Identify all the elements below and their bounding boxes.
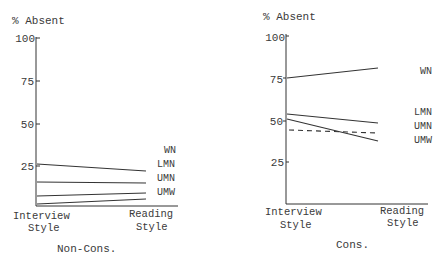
series-line-wn [37,164,146,171]
tick-label: 100 [15,33,35,45]
x-label-interview: Interview [13,210,70,222]
series-labels: WN LMN UMN UMW [414,66,432,146]
tick-label: 75 [21,76,34,88]
chart-caption: Cons. [336,239,369,251]
series-label-lmn: LMN [414,107,432,118]
x-label-reading-style: Style [387,217,419,229]
data-lines [287,68,378,141]
series-labels: WN LMN UMN UMW [157,145,176,198]
series-line-lmn [287,114,378,123]
x-label-interview: Interview [265,206,322,218]
series-line-lmn [37,182,146,183]
chart-cons: % Absent 100 75 50 25 WN LMN UMN UMW Int… [263,11,432,251]
series-label-umn: UMN [414,121,432,132]
tick-label: 100 [265,32,285,44]
series-label-umw: UMW [414,135,432,146]
x-label-reading: Reading [129,208,173,220]
tick-label: 50 [270,116,283,128]
y-axis-title: % Absent [263,11,316,23]
chart-canvas: % Absent 100 75 50 25 WN LMN UMN UMW Int… [0,0,448,265]
series-label-wn: WN [164,145,176,156]
series-line-umw [37,199,146,204]
x-label-reading: Reading [380,205,424,217]
tick-label: 75 [270,74,283,86]
y-ticks: 100 75 50 25 [265,32,289,169]
x-label-interview-style: Style [28,222,60,234]
series-label-umw: UMW [157,187,175,198]
tick-label: 50 [21,119,34,131]
chart-caption: Non-Cons. [57,243,116,255]
y-axis-title: % Absent [12,15,65,27]
tick-label: 25 [21,161,34,173]
series-line-wn [287,68,378,78]
data-lines [37,164,146,204]
series-label-lmn: LMN [157,159,175,170]
chart-non-cons: % Absent 100 75 50 25 WN LMN UMN UMW Int… [12,15,178,255]
series-label-wn: WN [420,66,432,77]
x-label-reading-style: Style [136,221,168,233]
series-label-umn: UMN [157,173,175,184]
series-line-umn [37,193,146,196]
tick-label: 25 [271,157,284,169]
x-label-interview-style: Style [280,219,312,231]
